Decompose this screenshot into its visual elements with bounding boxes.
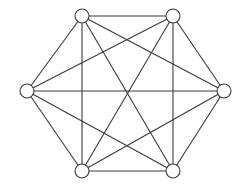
edge-n1-n6 bbox=[27, 16, 82, 91]
edge-n4-n6 bbox=[27, 91, 173, 171]
edges-layer bbox=[27, 16, 224, 171]
edge-n3-n4 bbox=[173, 91, 224, 171]
edge-n1-n3 bbox=[82, 16, 224, 91]
node-n2 bbox=[166, 9, 180, 23]
node-n1 bbox=[75, 9, 89, 23]
node-n6 bbox=[20, 84, 34, 98]
nodes-layer bbox=[20, 9, 231, 178]
edge-n3-n5 bbox=[82, 91, 224, 171]
node-n4 bbox=[166, 164, 180, 178]
edge-n2-n3 bbox=[173, 16, 224, 91]
complete-graph-diagram bbox=[0, 0, 249, 185]
node-n3 bbox=[217, 84, 231, 98]
node-n5 bbox=[75, 164, 89, 178]
edge-n5-n6 bbox=[27, 91, 82, 171]
